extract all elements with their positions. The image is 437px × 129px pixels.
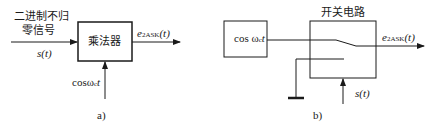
- switch-blade: [336, 40, 356, 46]
- output-signal-label-b: e2ASK(t): [382, 32, 415, 43]
- carrier-label-a: cosωct: [72, 77, 100, 88]
- input-signal-label: s(t): [37, 48, 52, 59]
- caption-b: b): [313, 110, 322, 121]
- caption-a: a): [97, 110, 106, 121]
- input-label-line1: 二进制不归: [14, 11, 69, 22]
- switch-box: [310, 21, 376, 78]
- multiplier-label: 乘法器: [88, 36, 121, 47]
- carrier-source-label: cos ωct: [234, 33, 265, 44]
- switch-circuit-title: 开关电路: [321, 7, 365, 18]
- input-label-line2: 零信号: [22, 25, 55, 36]
- output-signal-label-a: e2ASK(t): [137, 28, 170, 39]
- control-signal-label: s(t): [355, 88, 370, 99]
